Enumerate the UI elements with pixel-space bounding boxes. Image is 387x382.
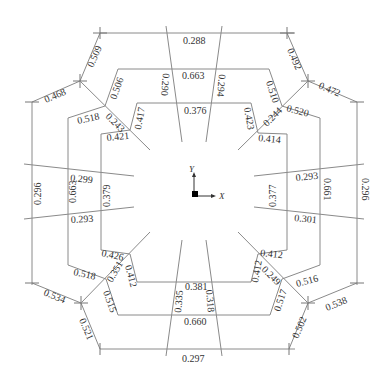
dim-inner-tr-upper: 0.423 xyxy=(242,106,257,130)
dim-middle-tl-upper: 0.506 xyxy=(108,76,126,101)
dim-outer-top: 0.288 xyxy=(183,35,206,46)
dim-inner-top: 0.376 xyxy=(184,105,207,116)
dim-strut-top-right: 0.294 xyxy=(215,74,228,97)
dim-middle-tr-lower: 0.520 xyxy=(285,102,310,118)
dim-inner-tl-upper: 0.417 xyxy=(132,106,147,130)
dim-inner-left: 0.379 xyxy=(101,185,112,208)
dim-inner-tr-lower: 0.414 xyxy=(258,132,282,145)
dim-middle-bottom: 0.660 xyxy=(184,316,207,327)
dim-strut-left-upper: 0.299 xyxy=(70,172,94,185)
dim-middle-top: 0.663 xyxy=(182,70,205,81)
dim-strut-right-lower: 0.301 xyxy=(294,212,318,225)
dim-strut-bottom-left: 0.335 xyxy=(172,290,185,313)
dim-inner-right: 0.377 xyxy=(267,185,278,208)
dim-inner-br-upper: 0.412 xyxy=(260,247,284,260)
dim-outer-bottom: 0.297 xyxy=(182,353,205,364)
dim-inner-bl-lower: 0.412 xyxy=(123,264,139,289)
x-axis-label: X xyxy=(218,191,225,201)
dim-diag-bl: 0.351 xyxy=(104,259,125,284)
dim-outer-tr-lower: 0.472 xyxy=(317,80,342,99)
dim-middle-tl-lower: 0.518 xyxy=(76,111,100,126)
dim-outer-left: 0.296 xyxy=(32,183,43,206)
dim-outer-bl-lower: 0.521 xyxy=(77,316,96,341)
dim-outer-bl-upper: 0.534 xyxy=(42,287,67,306)
dim-middle-tr-upper: 0.510 xyxy=(264,79,281,104)
dim-inner-bl-upper: 0.426 xyxy=(101,247,125,262)
dim-middle-br-upper: 0.516 xyxy=(295,272,320,288)
dim-strut-top-left: 0.290 xyxy=(159,73,172,96)
dim-outer-right: 0.296 xyxy=(360,178,371,201)
dim-outer-br-upper: 0.538 xyxy=(324,294,349,313)
dim-middle-bl-lower: 0.515 xyxy=(101,289,119,314)
dim-strut-right-upper: 0.293 xyxy=(295,170,319,183)
dim-middle-right: 0.661 xyxy=(322,178,333,201)
dim-strut-bottom-right: 0.318 xyxy=(204,289,217,312)
origin-axes: Y X xyxy=(189,164,225,201)
dim-outer-br-lower: 0.502 xyxy=(290,315,309,340)
dim-outer-tl-upper: 0.509 xyxy=(85,44,104,69)
dim-diag-br: 0.249 xyxy=(260,264,284,288)
dimension-diagram: Y X 0.288 0.297 0.296 0.296 0.509 0.468 … xyxy=(0,0,387,382)
dim-outer-tr-upper: 0.492 xyxy=(285,46,304,71)
dim-strut-left-lower: 0.293 xyxy=(71,213,94,225)
dim-outer-tl-lower: 0.468 xyxy=(42,86,67,105)
dim-middle-br-lower: 0.517 xyxy=(271,288,288,313)
dim-middle-left: 0.663 xyxy=(67,181,78,204)
dim-middle-bl-upper: 0.518 xyxy=(73,266,97,281)
